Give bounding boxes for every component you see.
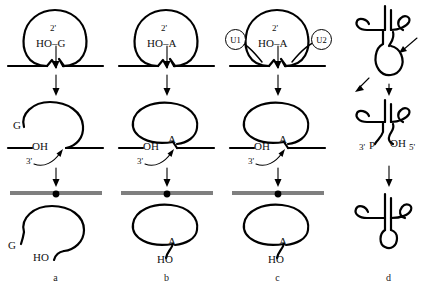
panel-b-stage-2-diagram <box>111 96 222 192</box>
snrnp-u1-label: U1 <box>230 35 240 45</box>
snrnp-u2-label: U2 <box>316 35 326 45</box>
panel-a-prime-label: 2' <box>50 24 56 33</box>
panel-c-nucleophile-label: HO–A <box>258 38 287 49</box>
panel-d-trna-splicing: 3' P OH 5' d <box>333 0 444 289</box>
panel-b-intron-a-label: A <box>168 236 176 247</box>
panel-c-prime-label: 2' <box>272 24 278 33</box>
panel-b-group-ii-intron: 2' HO–A A OH 3' <box>111 0 222 289</box>
panel-d-stage-3-diagram <box>333 192 444 272</box>
panel-a-nucleophile-label: HO–G <box>36 38 65 49</box>
panel-c-spliceosomal-splicing: U1 U2 2' HO–A A OH 3' <box>222 0 333 289</box>
panel-d-stage-2-diagram <box>333 96 444 192</box>
snrnp-u1-circle: U1 <box>225 29 246 50</box>
snrnp-u2-circle: U2 <box>311 29 332 50</box>
panel-b-nucleophile-label: HO–A <box>147 38 176 49</box>
panel-c-hydroxyl-label: OH <box>254 141 270 152</box>
panel-a-intron-g-label: G <box>8 240 16 251</box>
panel-d-hydroxyl-label: OH <box>390 138 406 149</box>
panel-label-a: a <box>0 272 111 283</box>
panel-d-prime-5-label: 5' <box>409 143 415 152</box>
panel-d-stage-1-diagram <box>333 0 444 96</box>
panel-a-nucleotide-label: G <box>13 120 21 131</box>
panel-b-hydroxyl-label: OH <box>143 141 159 152</box>
panel-b-prime-3-label: 3' <box>137 157 143 166</box>
panel-a-stage-3-diagram <box>0 192 111 272</box>
panel-b-prime-label: 2' <box>161 24 167 33</box>
panel-b-stage-1: 2' HO–A <box>111 0 222 96</box>
panel-a-stage-2-diagram <box>0 96 111 192</box>
panel-d-stage-2: 3' P OH 5' <box>333 96 444 192</box>
panel-c-stage-1: U1 U2 2' HO–A <box>222 0 333 96</box>
panel-c-stage-3: A HO <box>222 192 333 262</box>
panel-a-hydroxyl-label: OH <box>32 141 48 152</box>
panel-c-nucleotide-label: A <box>279 134 287 145</box>
panel-a-group-i-intron: 2' HO–G G OH 3' <box>0 0 111 289</box>
panel-a-intron-ho-label: HO <box>33 252 49 263</box>
panel-d-stage-1 <box>333 0 444 96</box>
panel-b-intron-ho-label: HO <box>157 254 173 265</box>
panel-a-stage-3: G HO <box>0 192 111 262</box>
panel-d-phosphate-label: P <box>369 140 375 151</box>
panel-a-stage-1: 2' HO–G <box>0 0 111 96</box>
panel-d-prime-3-label: 3' <box>359 143 365 152</box>
panel-c-intron-ho-label: HO <box>268 254 284 265</box>
panel-d-stage-3 <box>333 192 444 262</box>
panel-c-intron-a-label: A <box>279 236 287 247</box>
panel-b-nucleotide-label: A <box>168 134 176 145</box>
panel-b-stage-2: A OH 3' <box>111 96 222 192</box>
panel-c-prime-3-label: 3' <box>248 157 254 166</box>
panel-c-stage-2: A OH 3' <box>222 96 333 192</box>
rna-splicing-figure: 2' HO–G G OH 3' <box>0 0 445 289</box>
panel-a-prime-3-label: 3' <box>26 157 32 166</box>
panel-label-d: d <box>333 272 444 283</box>
panel-b-stage-3: A HO <box>111 192 222 262</box>
panel-label-b: b <box>111 272 222 283</box>
panel-a-stage-2: G OH 3' <box>0 96 111 192</box>
panel-c-stage-2-diagram <box>222 96 333 192</box>
panel-label-c: c <box>222 272 333 283</box>
